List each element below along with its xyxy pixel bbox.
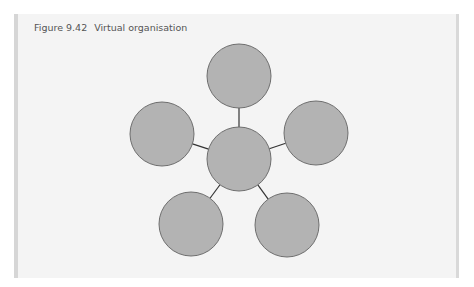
node-right xyxy=(284,101,348,165)
connector-bottom-left xyxy=(210,185,220,199)
node-top xyxy=(207,44,271,108)
virtual-organisation-diagram xyxy=(0,0,474,287)
connector-right xyxy=(269,143,285,149)
node-bottom-right xyxy=(255,193,319,257)
connector-left xyxy=(192,144,208,149)
connector-bottom-right xyxy=(258,185,268,199)
node-left xyxy=(130,102,194,166)
node-center xyxy=(207,127,271,191)
nodes xyxy=(130,44,348,257)
page: Figure 9.42Virtual organisation xyxy=(0,0,474,287)
node-bottom-left xyxy=(159,192,223,256)
